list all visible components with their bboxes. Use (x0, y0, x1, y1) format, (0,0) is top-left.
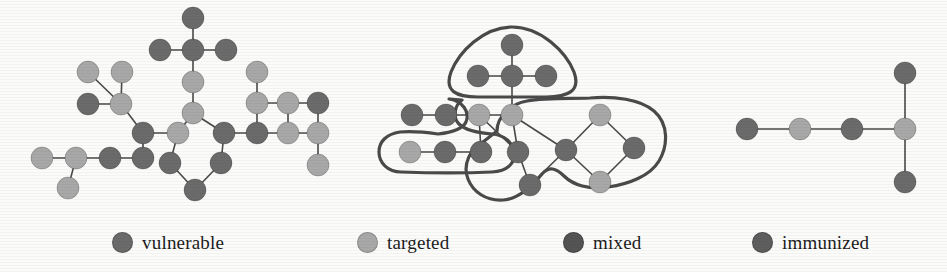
graph-node-light (182, 102, 204, 124)
graph-node-light (65, 147, 87, 169)
graph-node-dark (519, 174, 541, 196)
legend-item-vulnerable: vulnerable (112, 232, 224, 253)
graph-node-light (167, 122, 189, 144)
graph-node-dark (149, 39, 171, 61)
graph-node-light (589, 171, 611, 193)
graph-node-light (894, 118, 916, 140)
graph-node-dark (159, 152, 181, 174)
network-figure: vulnerabletargetedmixedimmunized (0, 0, 947, 272)
graph-node-light (246, 92, 268, 114)
graph-node-light (57, 177, 79, 199)
graph-node-dark (434, 141, 456, 163)
legend-mixed-circle-icon (563, 232, 584, 253)
legend-item-mixed: mixed (563, 232, 642, 253)
graph-node-light (31, 147, 53, 169)
graph-node-dark (435, 104, 457, 126)
legend-label: mixed (593, 233, 642, 252)
graph-node-light (789, 118, 811, 140)
graph-node-dark (501, 65, 523, 87)
graph-node-light (307, 154, 329, 176)
graph-node-light (307, 122, 329, 144)
graph-node-light (77, 61, 99, 83)
graph-node-light (277, 122, 299, 144)
graph-node-dark (246, 122, 268, 144)
graph-node-dark (210, 152, 232, 174)
graph-node-light (399, 141, 421, 163)
graph-node-dark (623, 137, 645, 159)
graph-node-dark (99, 147, 121, 169)
graph-node-light (589, 104, 611, 126)
legend-label: targeted (387, 233, 449, 252)
network-graphs-canvas (0, 0, 947, 220)
graph-node-dark (182, 39, 204, 61)
legend-item-targeted: targeted (357, 232, 449, 253)
legend-label: immunized (782, 233, 869, 252)
graph-node-dark (77, 93, 99, 115)
graph-node-light (277, 92, 299, 114)
graph-node-dark (182, 7, 204, 29)
graph-node-dark (501, 34, 523, 56)
legend-immunized-circle-icon (752, 232, 773, 253)
legend-targeted-circle-icon (357, 232, 378, 253)
graph-node-dark (894, 62, 916, 84)
graph-node-light (501, 104, 523, 126)
graph-node-dark (213, 122, 235, 144)
graph-node-dark (736, 118, 758, 140)
graph-node-light (468, 104, 490, 126)
legend-vulnerable-circle-icon (112, 232, 133, 253)
graph-node-dark (132, 122, 154, 144)
legend: vulnerabletargetedmixedimmunized (0, 222, 947, 272)
graph-node-dark (555, 139, 577, 161)
graph-node-dark (841, 118, 863, 140)
graph-node-dark (307, 92, 329, 114)
legend-label: vulnerable (142, 233, 224, 252)
graph-node-dark (467, 65, 489, 87)
graph-node-light (182, 71, 204, 93)
graph-node-dark (132, 147, 154, 169)
legend-item-immunized: immunized (752, 232, 869, 253)
graph-node-light (246, 61, 268, 83)
graph-node-dark (401, 104, 423, 126)
graph-node-dark (894, 171, 916, 193)
graph-node-light (110, 93, 132, 115)
graph-node-dark (184, 179, 206, 201)
graph-node-dark (215, 39, 237, 61)
graph-node-dark (507, 141, 529, 163)
graph-node-dark (535, 65, 557, 87)
graph-node-dark (470, 141, 492, 163)
graph-node-light (111, 61, 133, 83)
